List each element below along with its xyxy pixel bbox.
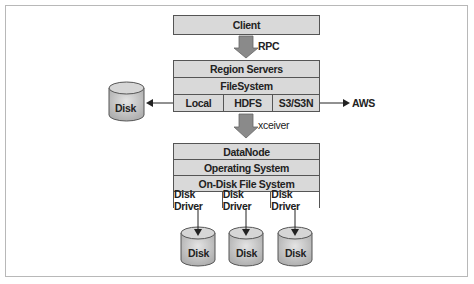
bottom-disk-1-label: Disk: [188, 247, 209, 259]
arrow-left-icon: [146, 99, 153, 107]
datanode-row: DataNode: [174, 144, 319, 160]
xceiver-label: xceiver: [258, 119, 289, 131]
connectors: [0, 0, 474, 284]
bottom-disk-3-label: Disk: [285, 247, 306, 259]
s3-cell: S3/S3N: [273, 95, 319, 111]
disk-driver-row: Disk Driver Disk Driver Disk Driver: [174, 192, 319, 208]
rpc-arrow-icon: [234, 36, 258, 58]
filesystem-row: FileSystem: [174, 78, 319, 95]
datanode-cell: DataNode: [174, 144, 319, 159]
rpc-label: RPC: [258, 40, 279, 52]
disk-driver-cell: Disk Driver: [271, 192, 319, 208]
aws-label: AWS: [352, 97, 375, 109]
region-servers-row: Region Servers: [174, 61, 319, 78]
arrow-right-icon: [343, 99, 350, 107]
os-cell: Operating System: [174, 160, 319, 175]
disk-driver-cell: Disk Driver: [223, 192, 272, 208]
bottom-disk-2-label: Disk: [236, 247, 257, 259]
local-cell: Local: [174, 95, 224, 111]
region-server-stack: Region Servers FileSystem Local HDFS S3/…: [173, 60, 320, 112]
left-disk-label: Disk: [115, 102, 136, 114]
region-servers-cell: Region Servers: [174, 61, 319, 77]
datanode-stack: DataNode Operating System On-Disk File S…: [173, 143, 320, 208]
filesystem-cell: FileSystem: [174, 78, 319, 94]
fs-impl-row: Local HDFS S3/S3N: [174, 95, 319, 111]
xceiver-arrow-icon: [234, 114, 258, 138]
disk-driver-cell: Disk Driver: [174, 192, 223, 208]
hdfs-cell: HDFS: [224, 95, 273, 111]
os-row: Operating System: [174, 160, 319, 176]
